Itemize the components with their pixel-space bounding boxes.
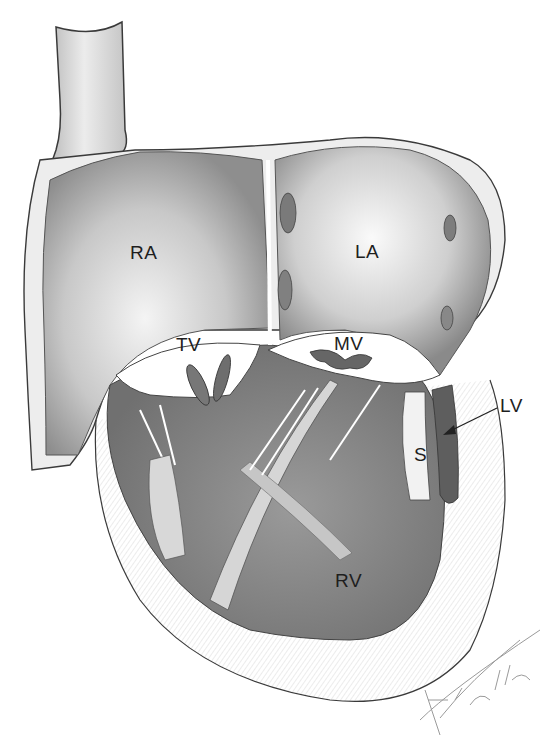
interatrial-septum: [268, 160, 270, 345]
pulmonary-vein-ostium: [441, 306, 453, 330]
label-left-ventricle: LV: [500, 395, 523, 417]
pulmonary-vein-ostium: [280, 193, 296, 233]
label-septum: S: [414, 444, 427, 466]
pulmonary-vein-ostium: [444, 215, 456, 241]
heart-illustration: [0, 0, 559, 755]
label-left-atrium: LA: [355, 241, 379, 263]
label-right-atrium: RA: [130, 242, 157, 264]
label-right-ventricle: RV: [335, 570, 362, 592]
label-tricuspid-valve: TV: [176, 334, 201, 356]
label-mitral-valve: MV: [334, 333, 364, 355]
pulmonary-vein-ostium: [278, 270, 292, 310]
